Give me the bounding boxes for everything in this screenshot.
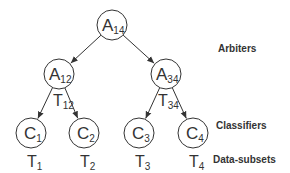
- data-subset-labels: T1T2T3T4: [27, 153, 205, 172]
- node-A34: A34: [151, 59, 181, 89]
- edge-labels: T12T34: [53, 92, 179, 111]
- edge-A14-to-A12: [71, 35, 101, 63]
- data-subset-T3: T3: [135, 153, 151, 172]
- node-C3: C3: [124, 118, 154, 148]
- data-subset-T1: T1: [27, 153, 43, 172]
- hierarchical-arbiter-tree-diagram: A14A12A34C1C2C3C4 T12T34 T1T2T3T4 Arbite…: [0, 0, 290, 173]
- data-subset-T4: T4: [189, 153, 205, 172]
- node-C2: C2: [69, 118, 99, 148]
- edge-label-T34: T34: [158, 92, 179, 111]
- node-A14: A14: [97, 10, 127, 40]
- legend-arbiters: Arbiters: [218, 43, 257, 54]
- nodes: A14A12A34C1C2C3C4: [16, 10, 208, 148]
- node-C4: C4: [178, 118, 208, 148]
- edge-A14-to-A34: [123, 35, 154, 63]
- edge-A12-to-C1: [38, 88, 53, 119]
- legend-data-subsets: Data-subsets: [213, 154, 276, 165]
- data-subset-T2: T2: [80, 153, 96, 172]
- node-A12: A12: [44, 59, 74, 89]
- legend-classifiers: Classifiers: [216, 120, 267, 131]
- edge-label-T12: T12: [53, 92, 74, 111]
- node-C1: C1: [16, 118, 46, 148]
